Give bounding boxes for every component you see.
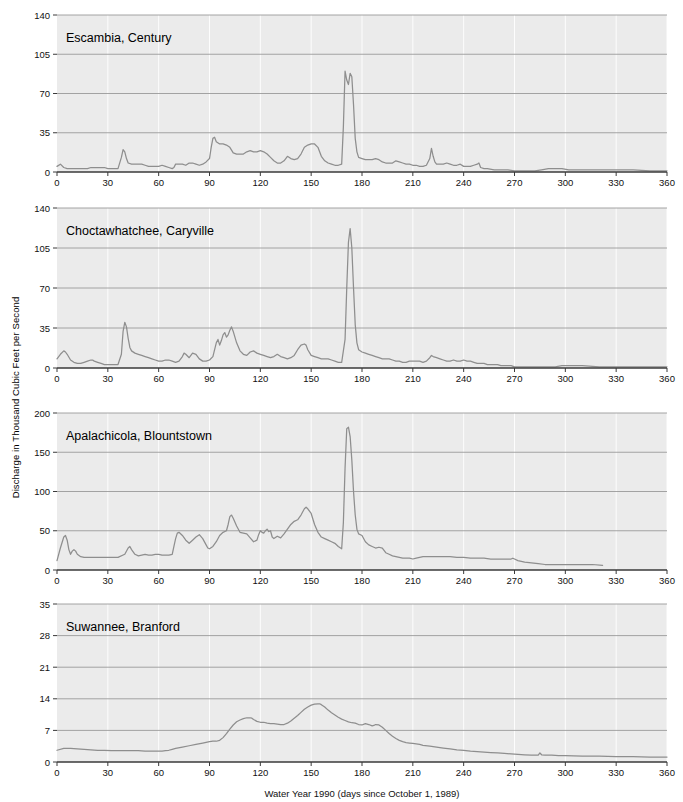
x-axis-tick-label: 0 [54,373,59,384]
y-axis-tick-label: 7 [45,725,50,736]
x-axis-tick-label: 150 [303,177,319,188]
y-axis-tick-label: 21 [39,662,50,673]
y-axis-tick-label: 0 [45,565,50,576]
x-axis-tick-label: 90 [204,177,215,188]
x-axis-tick-label: 180 [354,177,370,188]
chart-panel-2: 0306090120150180210240270300330360035701… [34,203,675,385]
y-axis-tick-label: 14 [39,693,50,704]
x-axis-tick-label: 0 [54,575,59,586]
x-axis-tick-label: 270 [507,575,523,586]
y-axis-tick-label: 200 [34,408,50,419]
x-axis-tick-label: 330 [608,575,624,586]
y-axis-tick-label: 140 [34,10,50,21]
x-axis-tick-label: 360 [659,575,675,586]
x-axis-tick-label: 30 [103,373,114,384]
x-axis-tick-label: 90 [204,575,215,586]
x-axis-tick-label: 30 [103,177,114,188]
y-axis-tick-label: 105 [34,49,50,60]
x-axis-tick-label: 90 [204,767,215,778]
panel-title: Escambia, Century [66,31,172,45]
x-axis-tick-label: 150 [303,767,319,778]
y-axis-tick-label: 35 [39,323,50,334]
x-axis-tick-label: 210 [405,373,421,384]
x-axis-tick-label: 60 [153,767,164,778]
discharge-hydrograph-figure: Discharge in Thousand Cubic Feet per Sec… [0,0,683,802]
panel-title: Choctawhatchee, Caryville [66,224,214,238]
x-axis-tick-label: 90 [204,373,215,384]
y-axis-tick-label: 70 [39,88,50,99]
x-axis-tick-label: 240 [456,767,472,778]
x-axis-tick-label: 270 [507,373,523,384]
x-axis-tick-label: 240 [456,373,472,384]
x-axis-tick-label: 270 [507,767,523,778]
x-axis-tick-label: 360 [659,767,675,778]
x-axis-tick-label: 180 [354,373,370,384]
x-axis-tick-label: 330 [608,767,624,778]
x-axis-tick-label: 360 [659,177,675,188]
y-axis-tick-label: 105 [34,243,50,254]
chart-panel-4: 0306090120150180210240270300330360071421… [39,599,675,779]
x-axis-tick-label: 150 [303,373,319,384]
x-axis-tick-label: 300 [557,373,573,384]
x-axis-tick-label: 210 [405,177,421,188]
y-axis-tick-label: 0 [45,363,50,374]
panel-title: Apalachicola, Blountstown [66,429,212,443]
x-axis-tick-label: 120 [252,767,268,778]
y-axis-tick-label: 0 [45,167,50,178]
x-axis-tick-label: 60 [153,575,164,586]
x-axis-tick-label: 0 [54,767,59,778]
x-axis-tick-label: 300 [557,177,573,188]
x-axis-tick-label: 30 [103,767,114,778]
y-axis-tick-label: 140 [34,203,50,214]
x-axis-tick-label: 240 [456,575,472,586]
x-axis-label: Water Year 1990 (days since October 1, 1… [264,788,459,799]
y-axis-tick-label: 0 [45,757,50,768]
y-axis-tick-label: 35 [39,127,50,138]
x-axis-tick-label: 300 [557,575,573,586]
y-axis-tick-label: 150 [34,447,50,458]
panel-title: Suwannee, Branford [66,620,180,634]
x-axis-tick-label: 360 [659,373,675,384]
x-axis-tick-label: 120 [252,373,268,384]
chart-panel-3: 0306090120150180210240270300330360050100… [34,408,675,587]
x-axis-tick-label: 60 [153,373,164,384]
x-axis-tick-label: 270 [507,177,523,188]
x-axis-tick-label: 330 [608,177,624,188]
x-axis-tick-label: 120 [252,177,268,188]
y-axis-tick-label: 28 [39,630,50,641]
x-axis-tick-label: 300 [557,767,573,778]
y-axis-tick-label: 35 [39,599,50,610]
chart-panel-1: 0306090120150180210240270300330360035701… [34,10,675,189]
y-axis-label: Discharge in Thousand Cubic Feet per Sec… [10,248,21,548]
x-axis-tick-label: 30 [103,575,114,586]
x-axis-tick-label: 330 [608,373,624,384]
x-axis-tick-label: 240 [456,177,472,188]
x-axis-tick-label: 150 [303,575,319,586]
x-axis-tick-label: 120 [252,575,268,586]
x-axis-tick-label: 180 [354,575,370,586]
y-axis-tick-label: 100 [34,486,50,497]
x-axis-tick-label: 0 [54,177,59,188]
y-axis-tick-label: 50 [39,525,50,536]
x-axis-tick-label: 210 [405,767,421,778]
y-axis-tick-label: 70 [39,283,50,294]
x-axis-tick-label: 210 [405,575,421,586]
x-axis-tick-label: 180 [354,767,370,778]
y-axis-label-container: Discharge in Thousand Cubic Feet per Sec… [0,0,18,802]
chart-canvas: 0306090120150180210240270300330360035701… [0,0,683,802]
x-axis-tick-label: 60 [153,177,164,188]
